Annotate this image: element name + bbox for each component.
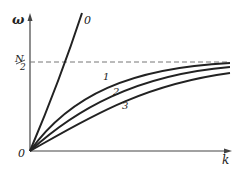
y-axis-arrow-icon (28, 13, 33, 21)
origin-label: 0 (18, 147, 25, 160)
x-axis-label: k (222, 153, 229, 167)
curve-1-label: 1 (103, 71, 109, 82)
curve-3 (30, 73, 230, 151)
y-axis-label: ω (12, 12, 25, 27)
curve-0-label: 0 (84, 14, 91, 27)
asymptote-label-den: 2 (19, 62, 26, 72)
curve-2-label: 2 (112, 86, 119, 97)
dispersion-diagram: ω N 2 0 k 0 1 2 3 (0, 0, 242, 171)
curve-3-label: 3 (122, 100, 128, 111)
